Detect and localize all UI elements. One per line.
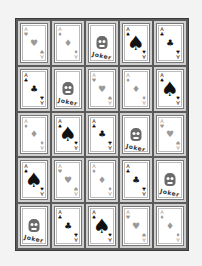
grid-cell[interactable]: A♣A♣♣ bbox=[86, 113, 118, 157]
card-index: A♣ bbox=[141, 186, 147, 196]
grid-cell[interactable]: A♦A♦♦ bbox=[52, 21, 84, 65]
skull-icon bbox=[131, 128, 142, 141]
skull-icon bbox=[165, 173, 176, 186]
heart-icon: ♥ bbox=[73, 186, 79, 191]
diamond-icon: ♦ bbox=[98, 176, 106, 185]
grid-cell[interactable]: Joker bbox=[52, 67, 84, 111]
heart-icon: ♥ bbox=[175, 140, 181, 145]
ace-of-spades-card[interactable]: A♠A♠♠ bbox=[122, 23, 150, 63]
ace-of-diamonds-card[interactable]: A♦A♦♦ bbox=[122, 69, 150, 109]
card-index: A♥ bbox=[23, 27, 29, 37]
card-index: A♥ bbox=[175, 140, 181, 150]
joker-label: Joker bbox=[21, 233, 48, 245]
joker-card[interactable]: Joker bbox=[20, 206, 48, 246]
card-index: A♣ bbox=[107, 140, 113, 150]
diamond-icon: ♦ bbox=[175, 232, 181, 237]
heart-icon: ♥ bbox=[132, 222, 140, 231]
ace-of-diamonds-card[interactable]: A♦A♦♦ bbox=[88, 160, 116, 200]
ace-of-hearts-card[interactable]: A♥A♥♥ bbox=[122, 206, 150, 246]
grid-cell[interactable]: Joker bbox=[120, 113, 152, 157]
card-index: A♥ bbox=[39, 49, 45, 59]
grid-cell[interactable]: A♦A♦♦ bbox=[154, 204, 186, 248]
club-icon: ♣ bbox=[73, 232, 79, 237]
ace-of-diamonds-card[interactable]: A♦A♦♦ bbox=[54, 23, 82, 63]
grid-cell[interactable]: A♣A♣♣ bbox=[154, 21, 186, 65]
ace-of-hearts-card[interactable]: A♥A♥♥ bbox=[88, 69, 116, 109]
grid-cell[interactable]: A♥A♥♥ bbox=[154, 113, 186, 157]
card-index: A♦ bbox=[125, 73, 131, 83]
grid-cell[interactable]: A♣A♣♣ bbox=[120, 158, 152, 202]
card-index: A♦ bbox=[39, 140, 45, 150]
grid-cell[interactable]: A♠A♠♠ bbox=[154, 67, 186, 111]
heart-icon: ♥ bbox=[98, 84, 106, 93]
club-icon: ♣ bbox=[175, 49, 181, 54]
ace-of-hearts-card[interactable]: A♥A♥♥ bbox=[156, 115, 184, 155]
grid-cell[interactable]: Joker bbox=[18, 204, 50, 248]
ace-of-hearts-card[interactable]: A♥A♥♥ bbox=[54, 160, 82, 200]
grid-cell[interactable]: A♥A♥♥ bbox=[18, 21, 50, 65]
ace-of-clubs-card[interactable]: A♣A♣♣ bbox=[20, 69, 48, 109]
heart-icon: ♥ bbox=[57, 169, 63, 174]
club-icon: ♣ bbox=[125, 169, 131, 174]
skull-icon bbox=[97, 36, 108, 49]
ace-of-spades-card[interactable]: A♠A♠♠ bbox=[88, 206, 116, 246]
grid-cell[interactable]: A♥A♥♥ bbox=[120, 204, 152, 248]
club-icon: ♣ bbox=[132, 176, 140, 185]
card-index: A♦ bbox=[57, 27, 63, 37]
grid-cell[interactable]: A♣A♣♣ bbox=[18, 67, 50, 111]
grid-cell[interactable]: Joker bbox=[86, 21, 118, 65]
grid-cell[interactable]: A♠A♠♠ bbox=[18, 158, 50, 202]
card-index: A♣ bbox=[39, 95, 45, 105]
joker-label: Joker bbox=[89, 49, 116, 61]
ace-of-diamonds-card[interactable]: A♦A♦♦ bbox=[156, 206, 184, 246]
ace-of-clubs-card[interactable]: A♣A♣♣ bbox=[156, 23, 184, 63]
diamond-icon: ♦ bbox=[57, 32, 63, 37]
club-icon: ♣ bbox=[91, 124, 97, 129]
ace-of-hearts-card[interactable]: A♥A♥♥ bbox=[20, 23, 48, 63]
club-icon: ♣ bbox=[141, 186, 147, 191]
ace-of-spades-card[interactable]: A♠A♠♠ bbox=[20, 160, 48, 200]
card-index: A♣ bbox=[159, 27, 165, 37]
ace-of-spades-card[interactable]: A♠A♠♠ bbox=[54, 115, 82, 155]
grid-cell[interactable]: A♣A♣♣ bbox=[52, 204, 84, 248]
ace-of-spades-card[interactable]: A♠A♠♠ bbox=[156, 69, 184, 109]
heart-icon: ♥ bbox=[91, 78, 97, 83]
diamond-icon: ♦ bbox=[30, 130, 38, 139]
diamond-icon: ♦ bbox=[23, 124, 29, 129]
grid-cell[interactable]: A♠A♠♠ bbox=[52, 113, 84, 157]
card-rank: A bbox=[107, 145, 113, 150]
spade-icon: ♠ bbox=[25, 170, 43, 190]
club-icon: ♣ bbox=[159, 32, 165, 37]
grid-cell[interactable]: A♦A♦♦ bbox=[18, 113, 50, 157]
ace-of-diamonds-card[interactable]: A♦A♦♦ bbox=[20, 115, 48, 155]
grid-cell[interactable]: A♦A♦♦ bbox=[86, 158, 118, 202]
diamond-icon: ♦ bbox=[159, 215, 165, 220]
card-index: A♦ bbox=[73, 49, 79, 59]
joker-card[interactable]: Joker bbox=[88, 23, 116, 63]
grid-cell[interactable]: A♠A♠♠ bbox=[86, 204, 118, 248]
grid-cell[interactable]: A♦A♦♦ bbox=[120, 67, 152, 111]
joker-card[interactable]: Joker bbox=[156, 160, 184, 200]
club-icon: ♣ bbox=[30, 84, 38, 93]
ace-of-clubs-card[interactable]: A♣A♣♣ bbox=[122, 160, 150, 200]
card-index: A♥ bbox=[141, 232, 147, 242]
card-index: A♥ bbox=[159, 119, 165, 129]
joker-label: Joker bbox=[55, 95, 82, 107]
ace-of-clubs-card[interactable]: A♣A♣♣ bbox=[54, 206, 82, 246]
joker-card[interactable]: Joker bbox=[54, 69, 82, 109]
club-icon: ♣ bbox=[166, 38, 174, 47]
grid-cell[interactable]: A♥A♥♥ bbox=[52, 158, 84, 202]
card-index: A♦ bbox=[141, 95, 147, 105]
joker-card[interactable]: Joker bbox=[122, 115, 150, 155]
card-index: A♣ bbox=[73, 232, 79, 242]
grid-cell[interactable]: A♥A♥♥ bbox=[86, 67, 118, 111]
heart-icon: ♥ bbox=[141, 232, 147, 237]
grid-cell[interactable]: A♠A♠♠ bbox=[120, 21, 152, 65]
heart-icon: ♥ bbox=[64, 176, 72, 185]
grid-cell[interactable]: Joker bbox=[154, 158, 186, 202]
heart-icon: ♥ bbox=[166, 130, 174, 139]
joker-label: Joker bbox=[123, 141, 150, 153]
ace-of-clubs-card[interactable]: A♣A♣♣ bbox=[88, 115, 116, 155]
diamond-icon: ♦ bbox=[141, 95, 147, 100]
diamond-icon: ♦ bbox=[73, 49, 79, 54]
